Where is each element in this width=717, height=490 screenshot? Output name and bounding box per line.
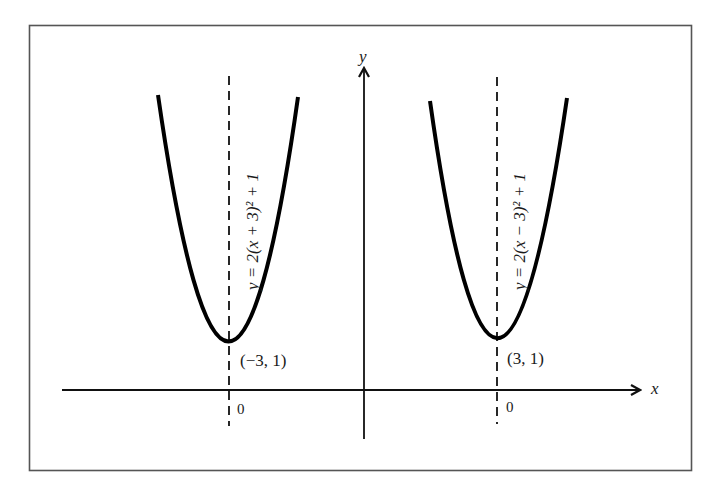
right-axis-tick-label: 0 — [506, 399, 514, 415]
left-parabola-curve — [158, 95, 298, 342]
right-parabola-curve — [430, 98, 567, 338]
right-parabola-equation: y = 2(x − 3)² + 1 — [510, 173, 529, 292]
y-axis-label: y — [357, 47, 367, 66]
left-axis-tick-label: 0 — [237, 401, 245, 417]
right-vertex-label: (3, 1) — [507, 349, 544, 368]
parabola-diagram: x y y = 2(x + 3)² + 1 (−3, 1) 0 y = 2(x … — [0, 0, 717, 490]
x-axis-label: x — [650, 379, 659, 398]
left-parabola-equation: y = 2(x + 3)² + 1 — [243, 173, 262, 292]
left-vertex-label: (−3, 1) — [240, 351, 286, 370]
figure-frame — [30, 26, 692, 471]
